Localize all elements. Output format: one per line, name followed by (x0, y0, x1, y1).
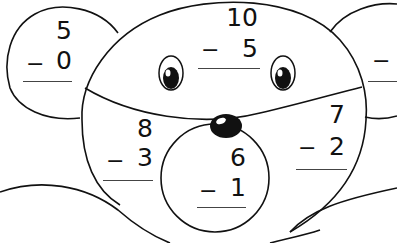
problem-right-cheek-top: 7 (325, 102, 345, 127)
right-ear-outline (330, 4, 397, 32)
problem-forehead-bottom: 5 (236, 36, 258, 61)
problem-left-cheek-bottom: 3 (133, 145, 153, 170)
problem-right-ear-minus: − (372, 50, 390, 72)
answer-line-right-cheek (296, 169, 347, 170)
problem-left-ear-top: 5 (52, 18, 72, 43)
bottom-right-curve (270, 230, 320, 243)
body-right-curve (290, 188, 397, 232)
problem-left-cheek-top: 8 (133, 116, 153, 141)
right-ear-lower (365, 116, 397, 119)
left-eye (159, 56, 183, 90)
problem-left-cheek-minus: − (106, 150, 124, 172)
problem-snout-bottom: 1 (226, 175, 246, 200)
right-eye (271, 56, 295, 90)
body-left-curve (0, 185, 170, 243)
problem-snout-top: 6 (226, 145, 246, 170)
problem-right-cheek-minus: − (298, 137, 316, 159)
problem-forehead-minus: − (201, 39, 219, 61)
problem-left-ear-bottom: 0 (52, 48, 72, 73)
problem-snout-minus: − (199, 180, 217, 202)
problem-forehead-top: 10 (226, 5, 258, 30)
answer-line-right-ear (368, 81, 397, 82)
answer-line-left-ear (23, 81, 72, 82)
answer-line-left-cheek (103, 180, 153, 181)
answer-line-snout (197, 207, 246, 208)
problem-right-cheek-bottom: 2 (325, 134, 345, 159)
problem-left-ear-minus: − (26, 53, 44, 75)
answer-line-forehead (198, 68, 260, 69)
nose (210, 114, 242, 138)
